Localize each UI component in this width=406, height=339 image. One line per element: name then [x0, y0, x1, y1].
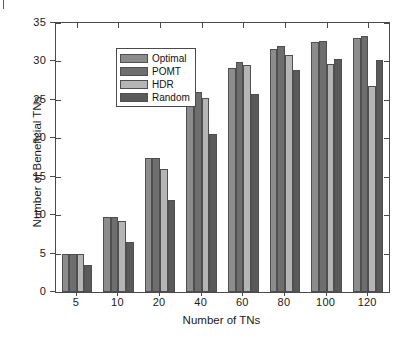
- bar: [285, 55, 293, 292]
- legend-label: Optimal: [152, 53, 186, 64]
- y-tick-inner-right: [384, 23, 389, 24]
- plot-area: OptimalPOMTHDRRandom: [55, 22, 390, 293]
- x-tick-inner-top: [160, 23, 161, 28]
- bar: [277, 46, 285, 292]
- bar-group: [62, 23, 92, 292]
- x-tick-label: 5: [73, 296, 79, 308]
- bar: [186, 105, 194, 292]
- legend-item: HDR: [120, 78, 192, 90]
- legend: OptimalPOMTHDRRandom: [116, 48, 196, 107]
- bar: [84, 265, 92, 292]
- bar: [270, 49, 278, 292]
- y-tick-inner: [56, 177, 61, 178]
- y-tick-label: 0: [40, 285, 46, 297]
- y-tick-inner: [56, 215, 61, 216]
- x-tick-label: 10: [111, 296, 124, 308]
- legend-swatch-pomt: [120, 67, 148, 76]
- legend-swatch-hdr: [120, 80, 148, 89]
- x-axis-title: Number of TNs: [55, 314, 388, 326]
- bar: [228, 68, 236, 292]
- legend-item: POMT: [120, 65, 192, 77]
- x-tick-mark: [367, 291, 368, 296]
- x-tick-inner-bottom: [368, 287, 369, 292]
- legend-item: Optimal: [120, 52, 192, 64]
- bar: [103, 217, 111, 292]
- bar: [334, 59, 342, 292]
- x-tick-inner-top: [77, 23, 78, 28]
- legend-label: Random: [152, 92, 190, 103]
- x-tick-label: 40: [194, 296, 207, 308]
- bar: [376, 60, 384, 292]
- bar: [118, 221, 126, 292]
- bar: [202, 98, 210, 292]
- x-tick-mark: [326, 291, 327, 296]
- y-tick-inner: [56, 100, 61, 101]
- bar-chart-figure: 05101520253035 Number of Beneficial TNs …: [0, 0, 406, 339]
- bar: [145, 158, 153, 293]
- bar-group: [270, 23, 300, 292]
- y-tick-inner-right: [384, 177, 389, 178]
- x-tick-inner-top: [118, 23, 119, 28]
- y-axis: 05101520253035: [0, 0, 55, 291]
- bar: [111, 217, 119, 292]
- bar: [293, 70, 301, 292]
- bar: [236, 62, 244, 292]
- y-tick-inner-right: [384, 292, 389, 293]
- bar: [62, 254, 70, 292]
- x-tick-inner-bottom: [202, 287, 203, 292]
- x-tick-label: 60: [236, 296, 249, 308]
- y-tick-inner: [56, 254, 61, 255]
- legend-swatch-optimal: [120, 54, 148, 63]
- bar-group: [353, 23, 383, 292]
- bar: [353, 38, 361, 292]
- x-tick-inner-top: [202, 23, 203, 28]
- x-tick-mark: [284, 291, 285, 296]
- y-tick-inner: [56, 292, 61, 293]
- bar: [152, 158, 160, 293]
- legend-label: HDR: [152, 79, 174, 90]
- y-tick-inner: [56, 138, 61, 139]
- x-tick-inner-top: [368, 23, 369, 28]
- bar: [243, 65, 251, 292]
- x-tick-label: 120: [358, 296, 377, 308]
- x-tick-label: 100: [316, 296, 335, 308]
- y-tick-inner-right: [384, 61, 389, 62]
- bar: [69, 254, 77, 292]
- y-tick-inner-right: [384, 100, 389, 101]
- bar: [194, 92, 202, 292]
- x-tick-label: 80: [278, 296, 291, 308]
- y-tick-inner-right: [384, 138, 389, 139]
- x-tick-label: 20: [153, 296, 166, 308]
- legend-swatch-random: [120, 93, 148, 102]
- bar: [361, 36, 369, 292]
- x-tick-inner-bottom: [118, 287, 119, 292]
- bar: [319, 41, 327, 292]
- y-tick-inner-right: [384, 215, 389, 216]
- legend-label: POMT: [152, 66, 181, 77]
- x-tick-inner-bottom: [77, 287, 78, 292]
- bar-group: [311, 23, 341, 292]
- bar: [251, 94, 259, 292]
- bar-group: [228, 23, 258, 292]
- bar: [168, 200, 176, 292]
- x-tick-inner-bottom: [243, 287, 244, 292]
- bar: [126, 242, 134, 292]
- x-tick-mark: [201, 291, 202, 296]
- y-tick-inner: [56, 23, 61, 24]
- y-tick-label: 35: [33, 16, 46, 28]
- x-tick-inner-bottom: [160, 287, 161, 292]
- x-tick-inner-bottom: [285, 287, 286, 292]
- y-axis-title: Number of Beneficial TNs: [31, 62, 43, 262]
- x-tick-mark: [242, 291, 243, 296]
- x-tick-inner-bottom: [327, 287, 328, 292]
- bar: [209, 134, 217, 292]
- bars-layer: [56, 23, 389, 292]
- bar: [160, 169, 168, 292]
- x-tick-inner-top: [327, 23, 328, 28]
- x-tick-mark: [117, 291, 118, 296]
- bar: [368, 86, 376, 292]
- x-tick-inner-top: [243, 23, 244, 28]
- y-tick-inner: [56, 61, 61, 62]
- y-tick-inner-right: [384, 254, 389, 255]
- x-tick-inner-top: [285, 23, 286, 28]
